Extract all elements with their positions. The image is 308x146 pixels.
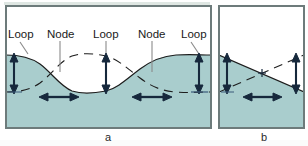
panel-a: Loop Node Loop Node Loop xyxy=(6,6,211,143)
panel-b-caption: b xyxy=(261,131,267,143)
panel-a-caption: a xyxy=(105,131,112,143)
top-tint-artifact xyxy=(4,2,210,5)
label-node-right: Node xyxy=(138,28,166,40)
label-node-left: Node xyxy=(47,28,75,40)
label-loop-center: Loop xyxy=(93,28,119,40)
standing-wave-figure: Loop Node Loop Node Loop xyxy=(0,0,308,146)
label-loop-left: Loop xyxy=(8,28,34,40)
panel-b: b xyxy=(219,6,304,143)
label-loop-right: Loop xyxy=(181,28,207,40)
